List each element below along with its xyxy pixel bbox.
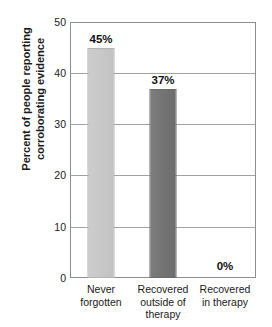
plot-area bbox=[70, 22, 256, 278]
gridline-20 bbox=[71, 175, 255, 176]
x-axis-labels: Never forgotten Recovered outside of the… bbox=[70, 283, 256, 327]
x-label-recovered-outside-therapy-line-3: therapy bbox=[132, 308, 194, 321]
gridline-30 bbox=[71, 124, 255, 125]
gridline-40 bbox=[71, 73, 255, 74]
x-label-never-forgotten-line-2: forgotten bbox=[70, 296, 132, 309]
x-label-recovered-outside-therapy-line-2: outside of bbox=[132, 296, 194, 309]
y-tick-20: 20 bbox=[40, 170, 66, 180]
y-tick-30: 30 bbox=[40, 119, 66, 129]
y-axis-title-line-2: corroborating evidence bbox=[33, 38, 48, 160]
x-label-never-forgotten-line-1: Never bbox=[70, 283, 132, 296]
bar-chart: Percent of people reporting corroboratin… bbox=[0, 0, 272, 327]
x-label-never-forgotten: Never forgotten bbox=[70, 283, 132, 327]
y-tick-50: 50 bbox=[40, 17, 66, 27]
y-tick-0: 0 bbox=[40, 273, 66, 283]
y-tick-10: 10 bbox=[40, 222, 66, 232]
x-label-recovered-in-therapy-line-2: in therapy bbox=[194, 296, 256, 309]
y-tick-40: 40 bbox=[40, 68, 66, 78]
x-label-recovered-in-therapy: Recovered in therapy bbox=[194, 283, 256, 327]
x-label-recovered-outside-therapy: Recovered outside of therapy bbox=[132, 283, 194, 327]
y-axis-title-line-1: Percent of people reporting bbox=[19, 27, 34, 170]
x-label-recovered-in-therapy-line-1: Recovered bbox=[194, 283, 256, 296]
gridline-10 bbox=[71, 227, 255, 228]
x-label-recovered-outside-therapy-line-1: Recovered bbox=[132, 283, 194, 296]
